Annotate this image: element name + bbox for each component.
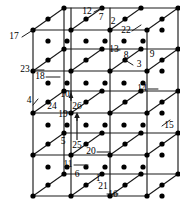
node-label-17: 17 <box>9 32 19 42</box>
node-label-26: 26 <box>72 102 82 112</box>
node-label-16: 16 <box>108 190 118 200</box>
node-label-6: 6 <box>75 170 80 180</box>
node-label-10: 10 <box>60 90 70 100</box>
node-label-25: 25 <box>72 141 82 151</box>
lattice-figure: 12 7 2 22 17 13 8 9 3 23 18 14 10 4 24 2… <box>0 0 180 204</box>
label-leaders <box>22 8 170 194</box>
node-label-8: 8 <box>124 51 129 61</box>
node-label-18: 18 <box>35 72 45 82</box>
node-label-12: 12 <box>82 7 92 17</box>
node-label-7: 7 <box>99 13 104 23</box>
arrow-25-to-26 <box>74 112 80 140</box>
node-label-3: 3 <box>137 60 142 70</box>
node-label-4: 4 <box>27 96 32 106</box>
node-label-2: 2 <box>111 17 116 27</box>
node-label-13: 13 <box>109 45 119 55</box>
node-label-23: 23 <box>20 65 30 75</box>
node-label-20: 20 <box>86 147 96 157</box>
node-label-9: 9 <box>150 50 155 60</box>
node-label-15: 15 <box>164 121 174 131</box>
node-label-14: 14 <box>137 84 147 94</box>
node-label-11: 11 <box>63 160 72 170</box>
node-label-24: 24 <box>47 102 57 112</box>
node-label-22: 22 <box>121 26 131 36</box>
node-label-5: 5 <box>61 137 66 147</box>
node-label-19: 19 <box>58 110 68 120</box>
node-label-21: 21 <box>98 182 108 192</box>
